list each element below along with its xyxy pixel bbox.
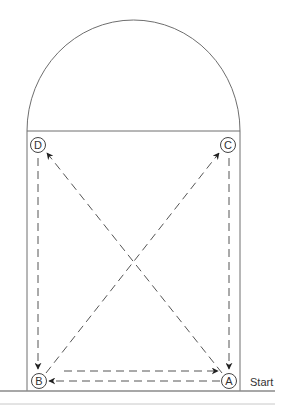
path-a-to-d [47, 153, 222, 373]
start-label: Start [250, 376, 273, 388]
drill-diagram: D C B A Start [0, 0, 286, 414]
node-b-label: B [35, 375, 42, 387]
court-arc [27, 20, 240, 131]
node-a-label: A [225, 375, 233, 387]
node-c-label: C [224, 139, 232, 151]
node-a: A [222, 374, 237, 389]
node-c: C [221, 138, 236, 153]
path-b-to-c [46, 153, 219, 373]
node-d-label: D [34, 139, 42, 151]
node-b: B [32, 374, 47, 389]
node-d: D [31, 138, 46, 153]
